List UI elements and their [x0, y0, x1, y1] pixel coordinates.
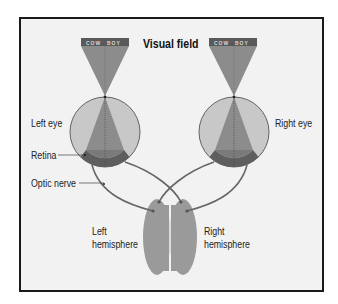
right-eye-outer-nerve	[187, 165, 247, 211]
diagram-title: Visual field	[143, 37, 199, 51]
optic-nerve-label: Optic nerve	[31, 178, 76, 189]
left-eye-label: Left eye	[31, 118, 62, 129]
right-hemisphere-label-1: Right	[204, 226, 225, 237]
left-eye-outer-nerve	[92, 165, 153, 211]
left-hemisphere-label-2: hemisphere	[92, 239, 138, 250]
left-eye-cross-nerve	[125, 162, 181, 202]
left-eye-group: COW BOY	[70, 38, 140, 167]
left-word-boy: BOY	[107, 40, 121, 46]
right-eye-cross-nerve	[159, 162, 214, 202]
right-word-boy: BOY	[235, 40, 249, 46]
retina-label: Retina	[31, 150, 56, 161]
right-field-cone	[209, 46, 257, 96]
right-eye-group: COW BOY	[199, 38, 269, 167]
right-eye-label: Right eye	[275, 118, 312, 129]
left-hemisphere-label-1: Left	[92, 226, 107, 237]
right-hemisphere-label-2: hemisphere	[204, 239, 250, 250]
right-word-cow: COW	[214, 40, 229, 46]
brain	[143, 196, 197, 278]
left-word-cow: COW	[86, 40, 101, 46]
